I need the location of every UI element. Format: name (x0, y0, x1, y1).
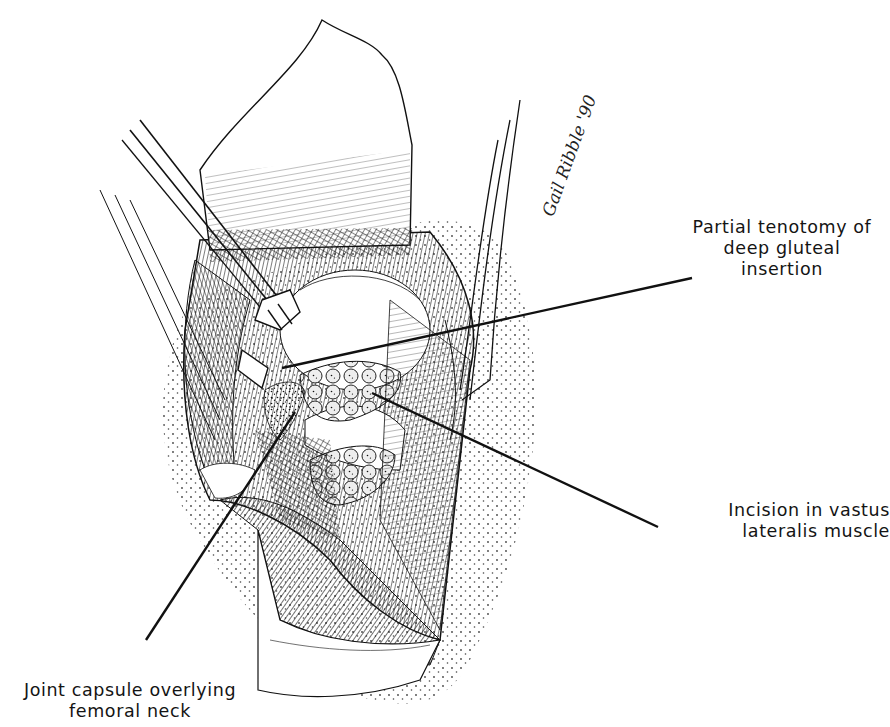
artist-signature: Gail Ribble '90 (520, 70, 640, 220)
signature-text: Gail Ribble '90 (538, 92, 600, 218)
label-line: Partial tenotomy of (682, 217, 882, 238)
label-incision-vastus-lateralis: Incision in vastus lateralis muscle (660, 500, 890, 542)
label-line: insertion (682, 259, 882, 280)
gluteal-flap (200, 20, 412, 262)
label-line: femoral neck (0, 701, 260, 722)
label-line: deep gluteal (682, 238, 882, 259)
label-line: Joint capsule overlying (0, 680, 260, 701)
label-line: Incision in vastus (660, 500, 890, 521)
label-line: lateralis muscle (660, 521, 890, 542)
label-partial-tenotomy: Partial tenotomy of deep gluteal inserti… (682, 217, 882, 280)
label-joint-capsule: Joint capsule overlying femoral neck (0, 680, 260, 722)
